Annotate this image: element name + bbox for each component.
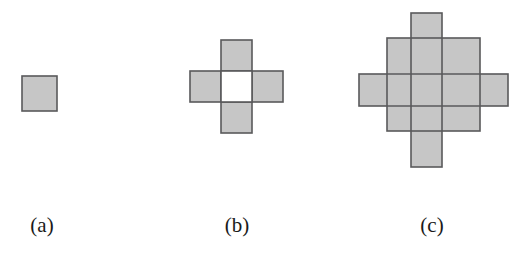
bottom-square — [221, 102, 252, 133]
left-square — [190, 71, 221, 102]
panel-c — [355, 9, 512, 171]
right-square — [252, 71, 283, 102]
panel-b — [186, 36, 287, 137]
shape-group-b — [186, 36, 287, 137]
caption-c: (c) — [392, 215, 472, 236]
caption-a: (a) — [2, 215, 82, 236]
shape-group-c — [355, 9, 512, 171]
figure-canvas: (a) (b) (c) — [0, 0, 527, 255]
shape-group-a — [18, 72, 61, 115]
center-hole — [221, 71, 252, 102]
caption-b: (b) — [197, 215, 277, 236]
center-block — [387, 38, 480, 131]
top-square — [221, 40, 252, 71]
center-square — [22, 76, 57, 111]
panel-a — [18, 72, 61, 115]
